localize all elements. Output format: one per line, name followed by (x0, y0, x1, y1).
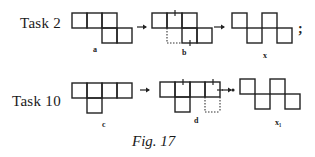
arrow-icon (222, 88, 235, 93)
shape-a: a (72, 13, 132, 54)
arrow-icon (140, 88, 150, 93)
shape-x1: x₁ (240, 79, 300, 127)
shape-x1-label: x₁ (275, 118, 282, 127)
arrow-icon (137, 25, 147, 30)
matchstick-diagram: a b x ; c (0, 0, 315, 157)
shape-c-label: c (102, 120, 106, 129)
arrow-icon (214, 25, 225, 30)
shape-x-label: x (263, 51, 267, 60)
shape-c: c (72, 83, 132, 129)
semicolon: ; (298, 21, 303, 36)
shape-b-label: b (182, 48, 187, 57)
shape-x: x (232, 13, 292, 60)
shape-a-label: a (93, 45, 97, 54)
shape-d-label: d (194, 116, 199, 125)
shape-b: b (152, 10, 212, 57)
shape-d: d (160, 79, 223, 125)
